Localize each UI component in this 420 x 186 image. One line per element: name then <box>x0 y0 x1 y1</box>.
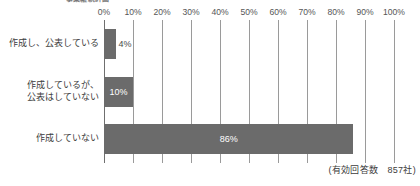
x-tick-label: 20% <box>153 6 170 18</box>
x-tick-label: 80% <box>327 6 344 18</box>
x-axis-tick-labels: 0%10%20%30%40%50%60%70%80%90%100% <box>0 6 420 19</box>
gridline <box>394 20 395 163</box>
x-tick-label: 100% <box>383 6 405 18</box>
x-tick-label: 40% <box>211 6 228 18</box>
bar <box>104 29 116 59</box>
bar-chart: 事業継続計画 0%10%20%30%40%50%60%70%80%90%100%… <box>0 0 420 186</box>
x-tick-label: 50% <box>240 6 257 18</box>
category-labels: 作成し、公表している作成しているが、 公表はしていない作成していない <box>0 20 100 163</box>
x-tick-label: 90% <box>356 6 373 18</box>
chart-title: 事業継続計画 <box>66 0 109 3</box>
bar-value-label: 86% <box>104 124 353 154</box>
bar-value-label: 10% <box>104 77 133 107</box>
response-count-annotation: (有効回答数 857社) <box>328 163 416 176</box>
x-tick-label: 10% <box>124 6 141 18</box>
category-label: 作成していない <box>0 133 99 145</box>
bar: 10% <box>104 77 133 107</box>
x-tick-label: 0% <box>98 6 110 18</box>
category-label: 作成しているが、 公表はしていない <box>0 80 99 103</box>
bar: 86% <box>104 124 353 154</box>
plot-area: 4%10%86% <box>104 20 394 163</box>
x-tick-label: 60% <box>269 6 286 18</box>
x-tick-label: 30% <box>182 6 199 18</box>
x-tick-label: 70% <box>298 6 315 18</box>
category-label: 作成し、公表している <box>0 38 99 50</box>
bar-value-label: 4% <box>119 29 132 59</box>
gridline <box>365 20 366 163</box>
